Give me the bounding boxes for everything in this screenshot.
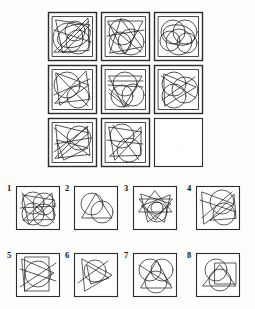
puzzle-canvas: 12345678 [0, 0, 255, 309]
matrix-cell [155, 66, 203, 114]
option-cell-1[interactable]: 1 [7, 183, 60, 230]
option-cell-5[interactable]: 5 [7, 250, 60, 297]
matrix-cell [102, 13, 150, 61]
cell-border [49, 13, 97, 61]
option-number-label: 4 [187, 183, 192, 193]
option-cell-3[interactable]: 3 [124, 183, 177, 230]
option-cell-6[interactable]: 6 [65, 250, 118, 297]
option-number-label: 5 [7, 250, 11, 260]
matrix-cell [102, 119, 150, 167]
option-cell-2[interactable]: 2 [65, 183, 118, 230]
matrix-cell [49, 13, 97, 61]
options-panel: 12345678 [7, 183, 240, 297]
option-number-label: 1 [7, 183, 11, 193]
cell-border [155, 119, 203, 167]
option-cell-8[interactable]: 8 [187, 250, 240, 297]
cell-border [102, 119, 150, 167]
matrix-puzzle: 12345678 [0, 0, 255, 309]
option-cell-4[interactable]: 4 [187, 183, 240, 230]
matrix-cell [102, 66, 150, 114]
option-border [75, 187, 118, 230]
matrix-cell-empty[interactable] [155, 119, 203, 167]
option-number-label: 7 [124, 250, 129, 260]
option-cell-7[interactable]: 7 [124, 250, 177, 297]
option-number-label: 2 [65, 183, 69, 193]
option-border [134, 187, 177, 230]
matrix-grid [49, 13, 203, 167]
option-number-label: 6 [65, 250, 69, 260]
matrix-cell [49, 119, 97, 167]
matrix-cell [49, 66, 97, 114]
option-number-label: 3 [124, 183, 128, 193]
matrix-cell [155, 13, 203, 61]
option-number-label: 8 [187, 250, 191, 260]
option-border [197, 254, 240, 297]
